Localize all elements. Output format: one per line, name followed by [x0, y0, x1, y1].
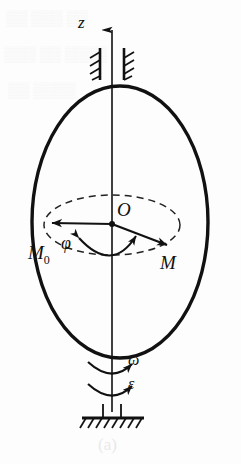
label-point-M0-subscript: 0	[44, 253, 50, 267]
phi-angle-arc	[79, 236, 136, 256]
label-point-M0-base: M	[28, 242, 44, 263]
diagram-svg	[0, 0, 241, 464]
figure-caption: (a)	[98, 436, 117, 453]
radius-to-M	[112, 224, 167, 245]
label-z-axis: z	[78, 14, 85, 31]
bearing-right	[124, 48, 134, 80]
bearing-left	[90, 48, 100, 80]
label-center-O: O	[117, 200, 131, 219]
label-angle-phi: φ	[61, 234, 71, 252]
ellipsoid-outline	[32, 86, 208, 358]
figure-canvas: ▒▒ ▒▒▒ ▒▒ ▒▒▒ ▒▒ ▒▒▒▒ ▒▒ ▒▒▒▒	[0, 0, 241, 464]
omega-curved-arrow	[88, 362, 132, 374]
label-angular-velocity: ω	[128, 352, 139, 368]
label-angular-acceleration: ε	[128, 376, 134, 392]
label-point-M0: M0	[28, 243, 50, 266]
epsilon-curved-arrow	[88, 384, 132, 396]
label-point-M: M	[160, 253, 176, 272]
radius-to-M0	[52, 223, 112, 224]
